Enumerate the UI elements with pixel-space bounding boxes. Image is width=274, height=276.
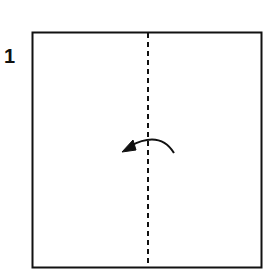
fold-diagram xyxy=(0,0,274,276)
